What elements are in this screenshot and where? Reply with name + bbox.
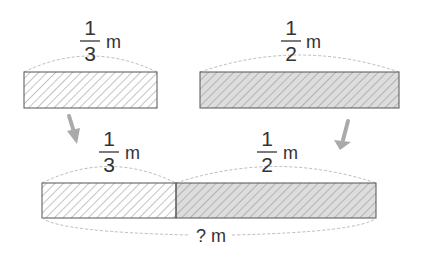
fraction-addition-diagram: 1 3 m 1 2 m 1 xyxy=(0,0,422,258)
top-left-fraction-label: 1 3 m xyxy=(79,16,121,65)
top-left-numerator: 1 xyxy=(84,16,96,39)
bottom-left-numerator: 1 xyxy=(103,127,115,150)
bottom-right-numerator: 1 xyxy=(261,127,273,150)
bottom-right-fraction-label: 1 2 m xyxy=(256,127,298,176)
bottom-right-denominator: 2 xyxy=(261,153,273,176)
bottom-right-unit: m xyxy=(283,143,298,163)
bottom-total-dashed-brace-right xyxy=(232,218,376,235)
top-right-unit: m xyxy=(306,32,321,52)
bottom-left-fraction-label: 1 3 m xyxy=(98,127,140,176)
total-length-label: ? m xyxy=(196,226,226,246)
top-right-denominator: 2 xyxy=(285,42,297,65)
bottom-total-dashed-brace-left xyxy=(42,218,190,235)
top-left-denominator: 3 xyxy=(84,42,96,65)
bottom-right-segment xyxy=(176,183,376,218)
bottom-left-segment xyxy=(42,183,176,218)
top-right-numerator: 1 xyxy=(285,16,297,39)
top-right-bar-group: 1 2 m xyxy=(200,16,399,108)
top-right-fraction-label: 1 2 m xyxy=(280,16,321,65)
top-right-dashed-brace xyxy=(200,55,399,72)
left-arrow-icon xyxy=(67,116,80,144)
top-left-unit: m xyxy=(106,32,121,52)
bottom-left-denominator: 3 xyxy=(103,153,115,176)
bottom-combined-bar-group: 1 3 m 1 2 m ? m xyxy=(42,127,376,246)
top-left-bar xyxy=(24,72,157,108)
right-arrow-icon xyxy=(334,121,351,150)
bottom-left-unit: m xyxy=(125,143,140,163)
top-left-bar-group: 1 3 m xyxy=(24,16,157,108)
top-right-bar xyxy=(200,72,399,108)
bottom-right-dashed-brace xyxy=(176,167,376,184)
